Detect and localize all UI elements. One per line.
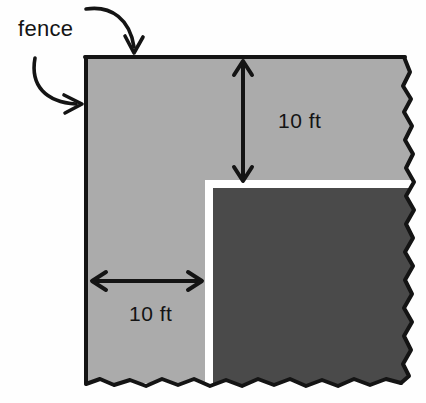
fence-callout-arrow-left [34,58,82,113]
fence-diagram-figure: 10 ft 10 ft fence [0,0,426,403]
separator-gap-vertical [205,180,213,386]
interior-region [213,188,414,386]
fence-label: fence [18,16,73,41]
vertical-dimension-label: 10 ft [278,109,321,132]
fence-callout-arrow-top [86,8,143,53]
separator-gap-horizontal [205,180,414,188]
interior-fill [213,188,414,386]
diagram-canvas: 10 ft 10 ft fence [0,0,426,403]
horizontal-dimension-label: 10 ft [129,302,172,325]
